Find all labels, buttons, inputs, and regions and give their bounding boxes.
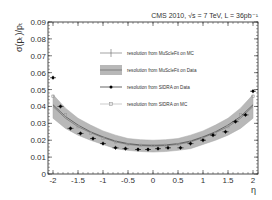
x-tick-label: -1.5 — [71, 176, 85, 185]
x-tick-label: 1 — [201, 176, 206, 185]
x-tick-label: 2 — [251, 176, 256, 185]
marker-sidra-data — [102, 142, 105, 145]
marker-sidra-data — [92, 137, 95, 140]
marker-sidra-data — [124, 147, 127, 150]
marker-sidra-data — [79, 132, 82, 135]
marker-sidra-data — [114, 146, 117, 149]
marker-sidra-data — [167, 146, 170, 149]
y-tick-label: 0.09 — [30, 18, 46, 27]
marker-sidra-data — [244, 113, 247, 116]
x-axis-label: η — [251, 185, 256, 195]
y-axis-label: σ(pₜ)/pₜ — [14, 22, 24, 52]
resolution-chart: -2-1.5-1-0.500.511.5200.010.020.030.040.… — [0, 0, 272, 200]
marker-sidra-data — [212, 134, 215, 137]
marker-sidra-data — [202, 139, 205, 142]
marker-sidra-data — [189, 142, 192, 145]
y-tick-label: 0.03 — [30, 119, 46, 128]
y-tick-label: 0.04 — [30, 102, 46, 111]
marker-sidra-data — [157, 147, 160, 150]
marker-sidra-data — [179, 146, 182, 149]
legend-label: resolution from MuScleFit on MC — [127, 51, 195, 56]
legend-label: resolution from MuScleFit on Data — [127, 68, 197, 73]
y-tick-label: 0.01 — [30, 153, 46, 162]
x-tick-label: 1.5 — [222, 176, 234, 185]
legend-label: resolution from SIDRA on Data — [127, 85, 190, 90]
legend-marker — [110, 86, 113, 89]
marker-sidra-data — [252, 90, 255, 93]
x-tick-label: 0.5 — [172, 176, 184, 185]
marker-sidra-data — [52, 76, 55, 79]
marker-sidra-data — [147, 148, 150, 151]
chart-title: CMS 2010, √s = 7 TeV, L = 36pb⁻¹ — [151, 12, 258, 20]
x-tick-label: 0 — [151, 176, 156, 185]
y-tick-label: 0.06 — [30, 69, 46, 78]
chart-container: -2-1.5-1-0.500.511.5200.010.020.030.040.… — [0, 0, 272, 200]
y-tick-label: 0.08 — [30, 35, 46, 44]
marker-sidra-data — [59, 105, 62, 108]
legend-label: resolution from SIDRA on MC — [127, 102, 188, 107]
marker-sidra-data — [137, 148, 140, 151]
x-tick-label: -0.5 — [121, 176, 135, 185]
x-tick-label: -2 — [49, 176, 57, 185]
y-tick-label: 0.02 — [30, 136, 46, 145]
y-tick-label: 0 — [42, 170, 47, 179]
marker-sidra-data — [234, 120, 237, 123]
marker-sidra-data — [224, 130, 227, 133]
marker-sidra-data — [69, 127, 72, 130]
y-tick-label: 0.05 — [30, 86, 46, 95]
y-tick-label: 0.07 — [30, 52, 46, 61]
x-tick-label: -1 — [99, 176, 107, 185]
